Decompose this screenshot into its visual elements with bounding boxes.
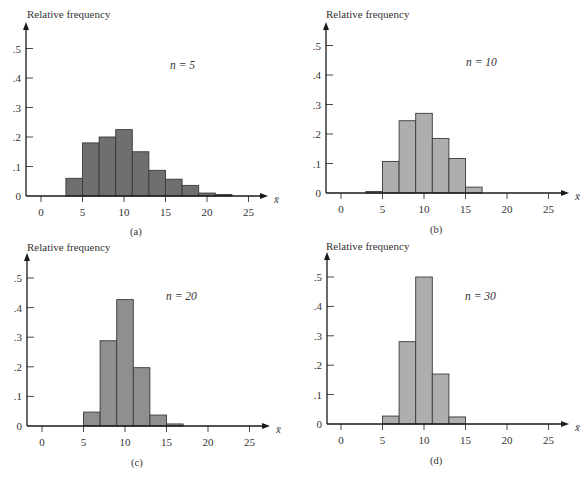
sample-size-annotation: n = 30	[465, 290, 496, 302]
histogram-bar	[432, 374, 449, 424]
x-tick-label: 0	[338, 203, 344, 215]
histogram-bar	[83, 143, 100, 196]
histogram-bar	[432, 138, 449, 193]
y-tick-label: .3	[13, 102, 22, 114]
histogram-bar	[149, 170, 166, 196]
histogram-bar	[182, 185, 199, 196]
x-tick-label: 0	[38, 206, 44, 218]
histogram-bar	[116, 130, 133, 196]
x-axis-symbol: x̄	[275, 423, 281, 435]
histogram-bar	[99, 137, 116, 196]
x-tick-label: 25	[543, 203, 555, 215]
x-tick-label: 15	[160, 206, 172, 218]
x-axis-arrow-icon	[561, 190, 569, 196]
x-tick-label: 5	[380, 203, 386, 215]
y-tick-label: .4	[313, 69, 322, 81]
y-tick-label: .1	[314, 389, 322, 401]
x-tick-label: 10	[120, 436, 132, 448]
x-tick-label: 20	[502, 434, 514, 446]
x-tick-label: 5	[80, 206, 86, 218]
histogram-bar	[416, 113, 433, 193]
histogram-bar	[399, 342, 416, 424]
histogram-bars	[366, 113, 482, 193]
x-axis-symbol: x̄	[574, 421, 580, 433]
histogram-bar	[449, 158, 466, 193]
histogram-bar	[399, 121, 416, 193]
histogram-bars	[84, 300, 184, 426]
x-tick-label: 10	[419, 203, 431, 215]
y-tick-label: .1	[13, 161, 21, 173]
x-tick-label: 0	[39, 436, 45, 448]
x-tick-label: 10	[119, 206, 131, 218]
y-axis-arrow-icon	[323, 22, 329, 30]
y-tick-label: .5	[313, 40, 322, 52]
y-tick-label: .4	[314, 300, 323, 312]
x-tick-label: 20	[502, 203, 514, 215]
x-tick-label: 20	[203, 436, 215, 448]
x-tick-label: 25	[244, 436, 256, 448]
y-tick-label: .3	[313, 99, 322, 111]
x-tick-label: 5	[81, 436, 87, 448]
histogram-bars	[66, 130, 232, 196]
y-tick-label: 0	[317, 418, 323, 430]
x-tick-label: 15	[460, 203, 472, 215]
y-tick-label: .2	[13, 131, 21, 143]
y-tick-label: 0	[16, 190, 22, 202]
sample-size-annotation: n = 5	[170, 59, 195, 71]
y-tick-label: .1	[313, 158, 321, 170]
histogram-bar	[132, 152, 149, 196]
x-axis-arrow-icon	[262, 423, 270, 429]
y-tick-label: .4	[14, 302, 23, 314]
x-tick-label: 10	[419, 434, 431, 446]
histogram-bar	[150, 415, 167, 426]
histogram-bar	[166, 179, 183, 196]
x-tick-label: 20	[202, 206, 214, 218]
y-tick-label: .2	[14, 361, 22, 373]
histogram-bar	[449, 417, 466, 424]
histogram-bar	[117, 300, 134, 426]
y-tick-label: .1	[14, 390, 22, 402]
y-axis-label: Relative frequency	[326, 240, 410, 252]
sample-size-annotation: n = 20	[166, 290, 197, 302]
histogram-bar	[383, 161, 400, 193]
histogram-panel-d: Relative frequency n = 30 (d) x̄ 0.1.2.3…	[314, 240, 580, 467]
x-tick-label: 15	[161, 436, 173, 448]
x-axis-arrow-icon	[260, 193, 268, 199]
y-tick-label: 0	[316, 187, 322, 199]
x-axis-symbol: x̄	[574, 190, 580, 202]
histogram-bar	[100, 341, 117, 426]
y-tick-label: .5	[13, 43, 22, 55]
x-tick-label: 25	[243, 206, 255, 218]
panel-label: (d)	[430, 455, 443, 467]
histogram-bar	[383, 416, 400, 424]
sample-size-annotation: n = 10	[466, 56, 497, 68]
y-tick-label: .3	[314, 330, 323, 342]
histogram-bar	[66, 178, 83, 196]
y-tick-label: .3	[14, 331, 23, 343]
x-tick-label: 15	[460, 434, 472, 446]
histogram-panel-a: Relative frequency n = 5 (a) x̄ 0.1.2.3.…	[13, 8, 279, 238]
panel-label: (c)	[131, 457, 143, 469]
y-axis-label: Relative frequency	[27, 241, 111, 253]
y-tick-label: .4	[13, 72, 22, 84]
x-tick-label: 25	[543, 434, 555, 446]
histogram-bar	[416, 277, 433, 424]
y-axis-arrow-icon	[24, 253, 30, 261]
y-tick-label: .2	[314, 359, 322, 371]
x-tick-label: 0	[338, 434, 344, 446]
histogram-panel-c: Relative frequency n = 20 (c) x̄ 0.1.2.3…	[14, 241, 281, 469]
y-axis-label: Relative frequency	[27, 8, 111, 20]
x-axis-symbol: x̄	[273, 193, 279, 205]
y-tick-label: .5	[14, 272, 23, 284]
y-tick-label: .5	[314, 271, 323, 283]
histogram-bars	[383, 277, 466, 424]
y-axis-arrow-icon	[23, 22, 29, 30]
panel-label: (b)	[430, 224, 443, 236]
y-axis-label: Relative frequency	[326, 8, 410, 20]
histogram-bar	[133, 368, 150, 426]
histogram-panel-b: Relative frequency n = 10 (b) x̄ 0.1.2.3…	[313, 8, 580, 236]
histogram-bar	[84, 412, 101, 426]
y-tick-label: .2	[313, 128, 321, 140]
sampling-distribution-figure: Relative frequency n = 5 (a) x̄ 0.1.2.3.…	[0, 0, 588, 483]
histogram-bar	[466, 187, 483, 193]
